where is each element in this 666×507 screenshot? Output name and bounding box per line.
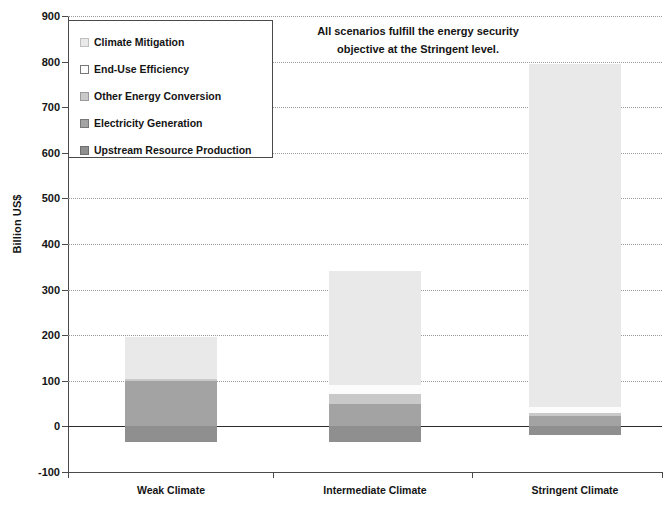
legend-label: Climate Mitigation xyxy=(94,37,184,48)
bar-segment xyxy=(329,426,421,442)
y-axis-title: Billion US$ xyxy=(11,169,23,279)
y-tick-mark xyxy=(62,198,68,199)
y-tick-mark xyxy=(62,290,68,291)
x-tick-mark xyxy=(68,472,69,478)
x-tick-mark xyxy=(472,472,473,478)
y-tick-mark xyxy=(62,335,68,336)
bar-segment xyxy=(529,426,621,434)
bar-segment xyxy=(329,271,421,385)
y-tick-label: 600 xyxy=(8,148,60,159)
y-tick-label: 100 xyxy=(8,376,60,387)
legend-item[interactable]: Other Energy Conversion xyxy=(80,89,221,103)
legend-swatch-icon xyxy=(80,146,89,155)
chart-annotation: All scenarios fulfill the energy securit… xyxy=(282,22,554,58)
legend-label: Upstream Resource Production xyxy=(94,145,252,156)
bar-segment xyxy=(329,394,421,404)
bar-segment xyxy=(125,426,217,442)
y-tick-mark xyxy=(62,426,68,427)
y-tick-label: 300 xyxy=(8,285,60,296)
bar-group xyxy=(329,16,421,472)
y-tick-label: -100 xyxy=(8,467,60,478)
y-tick-mark xyxy=(62,244,68,245)
bar-segment xyxy=(125,381,217,427)
x-tick-mark xyxy=(662,472,663,478)
y-tick-label: 0 xyxy=(8,421,60,432)
x-axis-line xyxy=(68,472,662,473)
legend-swatch-icon xyxy=(80,65,89,74)
bar-segment xyxy=(125,337,217,379)
bar-group xyxy=(529,16,621,472)
bar-segment xyxy=(529,64,621,407)
bar-segment xyxy=(529,416,621,426)
legend-label: Electricity Generation xyxy=(94,118,203,129)
legend: Climate MitigationEnd-Use EfficiencyOthe… xyxy=(68,20,273,158)
x-axis-label-1: Weak Climate xyxy=(91,484,251,496)
bar-segment xyxy=(329,404,421,427)
x-tick-mark xyxy=(273,472,274,478)
legend-label: Other Energy Conversion xyxy=(94,91,221,102)
y-tick-mark xyxy=(62,381,68,382)
y-tick-label: 500 xyxy=(8,193,60,204)
y-tick-label: 900 xyxy=(8,11,60,22)
legend-item[interactable]: End-Use Efficiency xyxy=(80,62,189,76)
y-tick-label: 400 xyxy=(8,239,60,250)
stacked-bar-chart: Billion US$ 9008007006005004003002001000… xyxy=(0,0,666,507)
y-tick-label: 200 xyxy=(8,330,60,341)
bar-segment xyxy=(125,379,217,380)
legend-label: End-Use Efficiency xyxy=(94,64,189,75)
y-tick-label: 800 xyxy=(8,57,60,68)
legend-swatch-icon xyxy=(80,92,89,101)
legend-item[interactable]: Electricity Generation xyxy=(80,116,203,130)
annotation-line-1: All scenarios fulfill the energy securit… xyxy=(317,25,519,37)
bar-segment xyxy=(529,413,621,417)
bar-segment xyxy=(529,407,621,412)
legend-swatch-icon xyxy=(80,38,89,47)
legend-item[interactable]: Climate Mitigation xyxy=(80,35,184,49)
x-axis-label-3: Stringent Climate xyxy=(495,484,655,496)
legend-swatch-icon xyxy=(80,119,89,128)
legend-item[interactable]: Upstream Resource Production xyxy=(80,143,252,157)
y-tick-mark xyxy=(62,16,68,17)
bar-segment xyxy=(329,385,421,393)
x-axis-label-2: Intermediate Climate xyxy=(295,484,455,496)
annotation-line-2: objective at the Stringent level. xyxy=(282,40,554,58)
y-tick-label: 700 xyxy=(8,102,60,113)
